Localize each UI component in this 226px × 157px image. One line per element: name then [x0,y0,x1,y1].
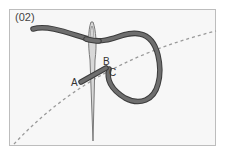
point-a-label: A [71,77,78,88]
point-c-label: C [109,67,116,78]
point-b-label: B [103,56,110,67]
stitch-illustration [0,0,226,157]
step-label: (02) [15,11,35,23]
